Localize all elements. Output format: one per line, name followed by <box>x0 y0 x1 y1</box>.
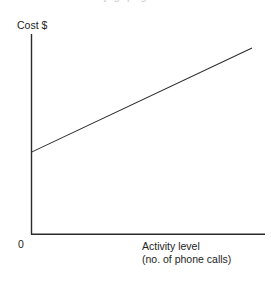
x-axis-title-line2: (no. of phone calls) <box>142 253 231 266</box>
origin-tick-label: 0 <box>18 238 24 251</box>
cost-line-series <box>32 48 253 152</box>
semi-variable-cost-chart: j g p g Cost $ 0 Activity level (no. of … <box>0 0 271 282</box>
y-axis-title: Cost $ <box>17 19 47 32</box>
x-axis-title: Activity level (no. of phone calls) <box>142 240 231 265</box>
x-axis-title-line1: Activity level <box>142 240 200 252</box>
